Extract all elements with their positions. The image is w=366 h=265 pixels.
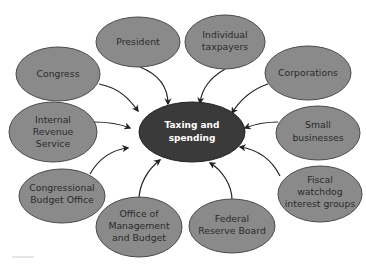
svg-text:interest groups: interest groups: [285, 198, 356, 209]
arrow-small-businesses: [245, 122, 278, 128]
arrow-fiscal-watchdog-interest-groups: [240, 147, 280, 176]
arrow-office-of-management-and-budget: [139, 160, 160, 200]
arrow-congressional-budget-office: [90, 148, 128, 174]
svg-text:Corporations: Corporations: [278, 67, 338, 78]
svg-text:Individual: Individual: [202, 29, 247, 40]
center-node-taxing-and-spending: Taxing and spending: [139, 102, 245, 162]
svg-text:taxpayers: taxpayers: [202, 41, 248, 52]
node-office-of-management-and-budget: Office of Management and Budget: [96, 197, 182, 257]
svg-text:President: President: [116, 36, 160, 47]
svg-text:Small: Small: [305, 119, 331, 130]
svg-text:Congress: Congress: [37, 68, 80, 79]
svg-text:Budget Office: Budget Office: [30, 194, 94, 205]
svg-text:Reserve Board: Reserve Board: [198, 225, 266, 236]
node-corporations: Corporations: [265, 46, 351, 100]
svg-text:Management: Management: [108, 220, 170, 231]
node-congressional-budget-office: Congressional Budget Office: [19, 169, 105, 223]
node-individual-taxpayers: Individual taxpayers: [185, 15, 265, 69]
image-credit-mark: [12, 256, 34, 258]
node-federal-reserve-board: Federal Reserve Board: [189, 199, 275, 253]
arrow-corporations: [232, 84, 268, 113]
svg-text:Internal: Internal: [35, 114, 71, 125]
svg-text:Federal: Federal: [215, 213, 249, 224]
svg-text:businesses: businesses: [292, 132, 343, 143]
svg-text:Fiscal: Fiscal: [307, 174, 333, 185]
arrow-president: [140, 67, 168, 104]
node-congress: Congress: [16, 47, 100, 101]
node-internal-revenue-service: Internal Revenue Service: [9, 102, 97, 162]
svg-text:Office of: Office of: [119, 208, 159, 219]
svg-text:Service: Service: [36, 138, 71, 149]
svg-text:Taxing and: Taxing and: [165, 120, 220, 130]
svg-text:spending: spending: [169, 133, 216, 143]
node-small-businesses: Small businesses: [276, 106, 360, 160]
svg-text:and Budget: and Budget: [112, 232, 166, 243]
arrow-federal-reserve-board: [210, 163, 232, 200]
node-president: President: [96, 17, 180, 67]
taxing-spending-diagram: President Individual taxpayers Congress …: [0, 0, 366, 265]
arrow-individual-taxpayers: [200, 69, 225, 103]
node-fiscal-watchdog-interest-groups: Fiscal watchdog interest groups: [278, 166, 362, 222]
arrow-internal-revenue-service: [94, 122, 130, 128]
svg-text:watchdog: watchdog: [297, 186, 343, 197]
svg-text:Congressional: Congressional: [29, 182, 94, 193]
arrow-congress: [99, 84, 138, 111]
svg-text:Revenue: Revenue: [33, 126, 74, 137]
